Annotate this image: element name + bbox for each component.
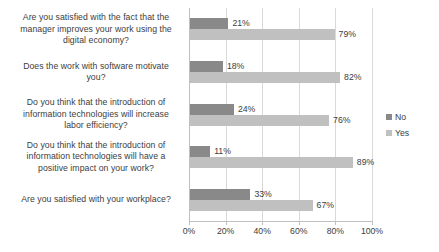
category-label-line: Does the work with software motivate xyxy=(4,61,188,72)
bar-value-label: 18% xyxy=(227,61,244,72)
x-axis-tick-label: 60% xyxy=(279,226,319,237)
x-axis-tick-label: 0% xyxy=(169,226,209,237)
category-label-line: information technologies will have a xyxy=(4,151,188,162)
chart-legend: NoYes xyxy=(386,110,436,142)
x-axis-tick xyxy=(372,221,373,225)
category-label: Are you satisfied with the fact that the… xyxy=(4,12,188,46)
category-label-line: Are you satisfied with the fact that the xyxy=(4,12,188,23)
x-axis-tick xyxy=(189,221,190,225)
legend-swatch-icon xyxy=(386,130,392,136)
x-axis-tick-label: 20% xyxy=(206,226,246,237)
category-label-line: positive impact on your work? xyxy=(4,163,188,174)
category-label-line: labor efficiency? xyxy=(4,120,188,131)
category-label-column: Are you satisfied with the fact that the… xyxy=(4,0,188,221)
bar-value-label: 76% xyxy=(333,115,350,126)
bar-value-label: 79% xyxy=(339,29,356,40)
bar-no xyxy=(190,189,250,200)
legend-item-no[interactable]: No xyxy=(386,110,436,123)
category-label-line: digital economy? xyxy=(4,35,188,46)
x-axis-tick-label: 80% xyxy=(315,226,355,237)
bar-value-label: 89% xyxy=(357,157,374,168)
bar-value-label: 11% xyxy=(214,146,231,157)
bar-chart: Are you satisfied with the fact that the… xyxy=(0,0,439,252)
category-label-line: Do you think that the introduction of xyxy=(4,97,188,108)
category-label-line: manager improves your work using the xyxy=(4,24,188,35)
bar-no xyxy=(190,18,228,29)
x-axis-tick-label: 40% xyxy=(242,226,282,237)
bar-no xyxy=(190,61,223,72)
bar-value-label: 67% xyxy=(317,200,334,211)
x-axis-tick xyxy=(262,221,263,225)
bar-yes xyxy=(190,115,329,126)
gridline xyxy=(372,8,373,221)
legend-swatch-icon xyxy=(386,114,392,120)
bar-yes xyxy=(190,157,353,168)
category-label: Are you satisfied with your workplace? xyxy=(4,194,188,205)
bar-value-label: 82% xyxy=(344,72,361,83)
category-label: Does the work with software motivateyou? xyxy=(4,61,188,84)
bar-yes xyxy=(190,200,313,211)
legend-item-yes[interactable]: Yes xyxy=(386,126,436,139)
x-axis-tick xyxy=(226,221,227,225)
category-label-line: Are you satisfied with your workplace? xyxy=(4,194,188,205)
bar-value-label: 21% xyxy=(232,18,249,29)
bar-value-label: 24% xyxy=(238,104,255,115)
legend-label: No xyxy=(395,112,406,122)
category-label: Do you think that the introduction ofinf… xyxy=(4,97,188,131)
x-axis-tick xyxy=(335,221,336,225)
bar-yes xyxy=(190,29,335,40)
x-axis-line xyxy=(189,221,372,222)
bar-value-label: 33% xyxy=(254,189,271,200)
x-axis-tick xyxy=(299,221,300,225)
category-label-line: Do you think that the introduction of xyxy=(4,140,188,151)
legend-label: Yes xyxy=(395,128,409,138)
x-axis-tick-labels: 0%20%40%60%80%100% xyxy=(189,226,372,240)
plot-area: 21%79%18%82%24%76%11%89%33%67% xyxy=(189,8,372,221)
category-label-line: information technologies will increase xyxy=(4,109,188,120)
bar-yes xyxy=(190,72,340,83)
category-label-line: you? xyxy=(4,72,188,83)
category-label: Do you think that the introduction ofinf… xyxy=(4,140,188,174)
bar-no xyxy=(190,104,234,115)
x-axis-tick-label: 100% xyxy=(352,226,392,237)
bar-no xyxy=(190,146,210,157)
